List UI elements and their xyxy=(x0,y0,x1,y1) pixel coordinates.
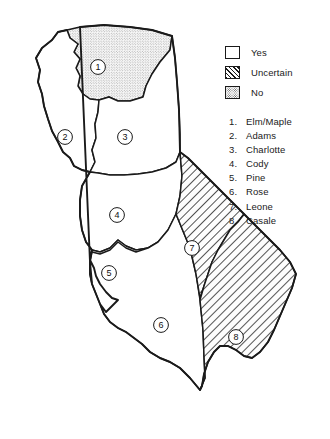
key-item-number: 7. xyxy=(229,201,246,212)
key-item-number: 8. xyxy=(229,215,246,226)
key-item-name: Charlotte xyxy=(246,144,285,155)
figure-root: 1 2 3 4 5 6 7 xyxy=(0,0,330,439)
key-list-item: 1. Elm/Maple xyxy=(229,116,329,130)
key-list-item: 4. Cody xyxy=(229,158,329,172)
key-item-number: 2. xyxy=(229,130,246,141)
legend-swatch-no xyxy=(225,86,240,99)
key-item-name: Casale xyxy=(246,215,276,226)
key-item-name: Adams xyxy=(246,130,276,141)
key-list-item: 6. Rose xyxy=(229,186,329,200)
key-list-item: 8. Casale xyxy=(229,215,329,229)
key-list-item: 3. Charlotte xyxy=(229,144,329,158)
region-key-list: 1. Elm/Maple 2. Adams 3. Charlotte 4. Co… xyxy=(229,116,329,229)
key-item-name: Pine xyxy=(246,172,265,183)
map-label-5: 5 xyxy=(102,266,117,281)
legend-item-no: No xyxy=(225,83,325,102)
legend-item-uncertain: Uncertain xyxy=(225,63,325,82)
map-label-4: 4 xyxy=(110,208,125,223)
legend-label-uncertain: Uncertain xyxy=(251,67,293,78)
key-item-name: Rose xyxy=(246,186,269,197)
key-item-number: 4. xyxy=(229,158,246,169)
legend-item-yes: Yes xyxy=(225,43,325,62)
key-item-name: Cody xyxy=(246,158,269,169)
key-list-item: 7. Leone xyxy=(229,201,329,215)
map-label-2: 2 xyxy=(58,130,73,145)
key-item-number: 1. xyxy=(229,116,246,127)
key-list-item: 5. Pine xyxy=(229,172,329,186)
key-item-name: Elm/Maple xyxy=(246,116,292,127)
key-item-number: 6. xyxy=(229,186,246,197)
legend-swatch-uncertain xyxy=(225,66,240,79)
legend-label-no: No xyxy=(251,87,263,98)
map-label-7: 7 xyxy=(185,241,200,256)
map-label-3: 3 xyxy=(118,130,133,145)
key-list-item: 2. Adams xyxy=(229,130,329,144)
legend-label-yes: Yes xyxy=(251,47,267,58)
key-item-number: 3. xyxy=(229,144,246,155)
map-label-1: 1 xyxy=(91,60,106,75)
map-label-8: 8 xyxy=(229,330,244,345)
key-item-name: Leone xyxy=(246,201,273,212)
legend-swatch-yes xyxy=(225,46,240,59)
legend: Yes Uncertain No xyxy=(225,43,325,103)
map-label-6: 6 xyxy=(154,318,169,333)
key-item-number: 5. xyxy=(229,172,246,183)
